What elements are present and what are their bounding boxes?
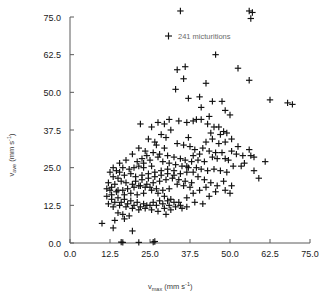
data-point-marker (166, 202, 172, 208)
data-point-marker (121, 216, 127, 222)
data-point-marker (196, 187, 202, 193)
data-point-marker (148, 163, 154, 169)
data-point-marker (120, 239, 126, 245)
data-point-marker (144, 181, 150, 187)
data-point-marker (195, 174, 201, 180)
data-point-marker (168, 207, 174, 213)
data-point-marker (147, 184, 153, 190)
data-point-marker (228, 183, 234, 189)
data-point-marker (209, 136, 215, 142)
data-point-marker (182, 64, 188, 70)
data-point-marker (219, 98, 225, 104)
data-point-marker (123, 204, 129, 210)
y-tick-label: 0.0 (48, 239, 61, 249)
data-point-marker (137, 121, 143, 127)
data-point-marker (190, 152, 196, 158)
data-point-marker (238, 163, 244, 169)
data-point-marker (248, 152, 254, 158)
data-point-marker (139, 177, 145, 183)
data-point-marker (160, 158, 166, 164)
scatter-plot-figure: 0.012.525.037.550.062.575.00.012.525.037… (0, 0, 326, 302)
data-point-marker (182, 157, 188, 163)
data-point-marker (116, 160, 122, 166)
data-point-marker (219, 149, 225, 155)
svg-text:vave (mm s-1): vave (mm s-1) (6, 133, 17, 176)
data-point-marker (196, 94, 202, 100)
svg-text:vmax (mm s-1): vmax (mm s-1) (148, 281, 193, 292)
data-point-marker (177, 170, 183, 176)
data-point-marker (228, 148, 234, 154)
data-point-marker (134, 192, 140, 198)
data-point-marker (113, 167, 119, 173)
data-point-marker (212, 149, 218, 155)
data-point-marker (212, 189, 218, 195)
data-point-marker (180, 142, 186, 148)
y-axis-title: vave (mm s-1) (6, 133, 17, 176)
data-point-marker (203, 139, 209, 145)
data-point-marker (148, 207, 154, 213)
data-point-marker (134, 158, 140, 164)
data-point-marker (180, 183, 186, 189)
data-point-marker (152, 238, 158, 244)
data-point-marker (222, 155, 228, 161)
data-point-marker (107, 187, 113, 193)
data-point-marker (188, 158, 194, 164)
data-point-marker (206, 148, 212, 154)
data-point-marker (131, 202, 137, 208)
data-point-marker (184, 119, 190, 125)
data-point-marker (107, 169, 113, 175)
data-point-marker (112, 217, 118, 223)
x-tick-label: 12.5 (101, 249, 119, 259)
data-point-marker (148, 187, 154, 193)
x-axis-title-unit: (mm s (164, 282, 185, 291)
data-point-marker (235, 143, 241, 149)
data-point-marker (225, 157, 231, 163)
data-point-marker (246, 77, 252, 83)
data-point-marker (174, 140, 180, 146)
data-point-marker (184, 204, 190, 210)
data-point-marker (120, 164, 126, 170)
data-point-marker (192, 199, 198, 205)
data-point-marker (160, 187, 166, 193)
data-point-marker (123, 157, 129, 163)
x-axis-title-close: ) (190, 282, 193, 291)
data-point-marker (200, 145, 206, 151)
data-point-marker (168, 196, 174, 202)
data-point-marker (246, 146, 252, 152)
data-point-marker (249, 9, 255, 15)
data-point-marker (240, 152, 246, 158)
data-point-marker (132, 178, 138, 184)
data-point-marker (211, 166, 217, 172)
data-point-marker (164, 152, 170, 158)
data-point-marker (148, 124, 154, 130)
data-point-marker (158, 172, 164, 178)
data-point-marker (169, 175, 175, 181)
data-point-marker (150, 149, 156, 155)
data-point-marker (164, 170, 170, 176)
data-point-marker (179, 205, 185, 211)
data-point-marker (112, 199, 118, 205)
data-point-marker (164, 198, 170, 204)
data-point-marker (126, 213, 132, 219)
data-point-marker (192, 146, 198, 152)
data-point-marker (110, 164, 116, 170)
data-point-marker (206, 113, 212, 119)
data-point-marker (104, 186, 110, 192)
data-point-marker (153, 202, 159, 208)
data-point-marker (204, 121, 210, 127)
data-point-marker (137, 183, 143, 189)
data-point-marker (161, 193, 167, 199)
data-point-marker (216, 140, 222, 146)
data-point-marker (246, 8, 252, 14)
data-point-marker (201, 177, 207, 183)
y-tick-label: 62.5 (43, 50, 61, 60)
x-tick-label: 25.0 (141, 249, 159, 259)
data-point-marker (140, 164, 146, 170)
legend-marker-icon (165, 33, 172, 40)
y-axis-title-close: ) (7, 133, 16, 136)
data-point-marker (150, 239, 156, 245)
data-point-marker (176, 177, 182, 183)
data-point-marker (160, 201, 166, 207)
data-point-marker (203, 184, 209, 190)
data-point-marker (220, 128, 226, 134)
